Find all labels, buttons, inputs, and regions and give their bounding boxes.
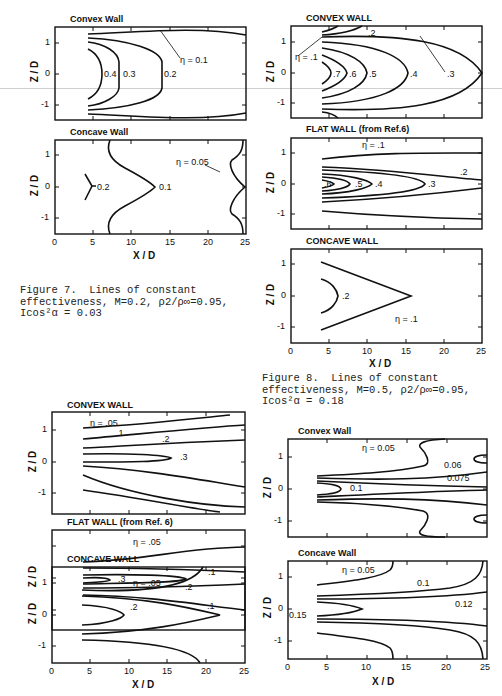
plot-fig8-concave [291,249,482,343]
y-tick: -1 [277,97,285,107]
contour-label: 0.1 [159,182,172,192]
y-axis-label: Z / D [265,172,276,194]
y-tick: 1 [45,149,50,159]
y-axis-label: Z / D [262,477,273,499]
y-axis-label: Z / D [29,175,40,197]
y-tick: 1 [278,571,283,581]
contour-label: η = .05 [90,418,118,428]
x-axis-label: X / D [132,679,154,690]
figure-plots [0,0,502,696]
plot-fig-right-concave [288,561,487,659]
plot-fig7-concave [55,140,246,234]
y-axis-label: Z / D [27,566,38,588]
x-tick: 25 [239,666,249,676]
panel-title-fig8-flat: FLAT WALL (from Ref.6) [306,124,409,134]
contour-label: 0.3 [123,69,136,79]
y-tick: 0 [281,290,286,300]
x-tick: 5 [87,666,92,676]
contour-label: .2 [460,167,468,177]
contour-label: η = .1 [395,314,418,324]
y-axis-label: Z / D [27,451,38,473]
x-tick: 20 [201,666,211,676]
y-tick: 0 [45,181,50,191]
x-tick: 10 [362,346,372,356]
contour-label: .5 [369,69,377,79]
plot-fig8-flat [291,138,482,229]
y-tick: -1 [277,208,285,218]
panel-title-right-convex: Convex Wall [298,426,351,436]
x-axis-label: X / D [133,250,155,261]
contour-label: .2 [130,602,138,612]
y-tick: 1 [281,147,286,157]
figure-7-caption: Figure 7. Lines of constant effectivenes… [20,285,228,320]
panel-title-right-concave: Concave Wall [298,548,356,558]
contour-label: .2 [162,434,170,444]
contour-label: η = 0.05 [342,565,375,575]
plot-fig7-convex [55,27,246,120]
contour-label: 0.2 [164,69,177,79]
x-tick: 5 [324,662,329,672]
y-axis-label: Z / D [265,61,276,83]
plot-convex-wall-lower [52,412,245,514]
panel-title-flat-lower: FLAT WALL (from Ref. 6) [67,517,173,527]
contour-label: .2 [185,582,193,592]
x-tick: 0 [288,346,293,356]
contour-label: η = .05 [133,578,161,588]
panel-title-fig8-convex: CONVEX WALL [306,13,372,23]
y-axis-label: Z / D [262,597,273,619]
x-axis-label: X / D [369,358,391,369]
plot-fig-right-convex [288,439,487,537]
y-tick: 1 [281,36,286,46]
x-tick: 25 [480,662,490,672]
contour-label: .6 [349,69,357,79]
y-tick: -1 [274,635,282,645]
panel-title-convex-lower: CONVEX WALL [67,400,133,410]
contour-label: .1 [116,428,124,438]
contour-label: η = 0.1 [180,55,208,65]
contour-label: 0.075 [447,473,470,483]
y-tick: 0 [42,609,47,619]
y-tick: -1 [274,515,282,525]
y-axis-label: Z / D [265,284,276,306]
y-tick: 0 [281,178,286,188]
panel-title-fig8-concave: CONCAVE WALL [306,236,378,246]
contour-label: .5 [355,179,363,189]
y-axis-label: Z / D [29,61,40,83]
y-tick: 0 [42,456,47,466]
y-tick: 1 [278,451,283,461]
panel-title-concave-lower: CONCAVE WALL [67,554,139,564]
x-tick: 10 [361,662,371,672]
y-tick: 1 [45,37,50,47]
x-tick: 25 [476,346,486,356]
contour-label: .3 [180,452,188,462]
x-tick: 25 [240,237,250,247]
x-tick: 0 [285,662,290,672]
contour-label: 0.15 [289,610,307,620]
contour-label: .2 [368,28,376,38]
y-tick: 0 [278,483,283,493]
y-tick: 1 [42,424,47,434]
contour-label: η = .1 [362,140,385,150]
y-axis-label: Z / D [27,603,38,625]
y-tick: -1 [41,99,49,109]
x-tick: 10 [124,666,134,676]
contour-label: .3 [428,179,436,189]
contour-label: .3 [118,574,126,584]
x-axis-label: X / D [372,676,394,687]
contour-label: η = .1 [295,52,318,62]
contour-label: .7 [333,69,341,79]
contour-label: 0.1 [350,483,363,493]
contour-label: .1 [208,567,216,577]
contour-label: 0.4 [104,69,117,79]
y-tick: 0 [45,68,50,78]
x-tick: 20 [441,662,451,672]
contour-label: 0.1 [417,578,430,588]
y-tick: 0 [281,67,286,77]
contour-label: .4 [410,69,418,79]
contour-label: .6 [324,179,332,189]
contour-label: .3 [447,69,455,79]
contour-label: .4 [375,179,383,189]
panel-title-fig7-convex: Convex Wall [70,14,123,24]
y-tick: -1 [41,212,49,222]
y-tick: 0 [278,603,283,613]
